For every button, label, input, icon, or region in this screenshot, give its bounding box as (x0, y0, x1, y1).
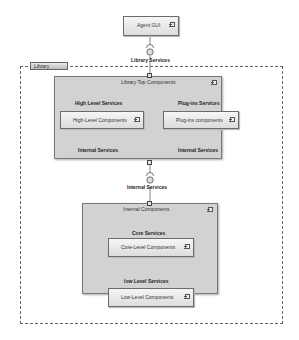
library-top-components-label: Library Top Components (121, 79, 175, 85)
internal-components-label: Internal Components (123, 206, 169, 212)
internal-services-right-label: Internal Services (178, 147, 218, 153)
plugins-components-label: Plug-ins components (176, 117, 223, 123)
component-icon (208, 207, 213, 212)
high-level-components[interactable]: High-Level Components (60, 111, 144, 129)
high-level-services-label: High Level Services (75, 100, 122, 106)
low-level-components[interactable]: Low-Level Components (108, 288, 194, 307)
internal-services-left-label: Internal Services (78, 147, 118, 153)
agent-gui-component[interactable]: Agent GUI (123, 16, 179, 36)
low-level-services-label: low Level Services (124, 278, 168, 284)
core-services-label: Core Services (132, 230, 165, 236)
component-icon (170, 22, 175, 27)
internal-services-mid-label: Internal Services (127, 184, 167, 190)
component-icon (135, 117, 140, 122)
agent-gui-label: Agent GUI (137, 22, 160, 28)
internal-port-top (147, 160, 152, 165)
component-icon (212, 80, 217, 85)
core-level-components-label: Core-Level Components (121, 244, 175, 250)
component-icon (185, 294, 190, 299)
library-services-label: Library Services (131, 57, 170, 63)
library-package-tab: Library (30, 62, 68, 70)
plugins-components[interactable]: Plug-ins components (163, 111, 239, 129)
component-icon (185, 244, 190, 249)
core-level-components[interactable]: Core-Level Components (108, 238, 194, 257)
plugin-services-label: Plug-ins Services (178, 100, 220, 106)
component-icon (230, 117, 235, 122)
internal-port-bottom (147, 201, 152, 206)
high-level-components-label: High-Level Components (73, 117, 127, 123)
library-port (147, 73, 152, 78)
low-level-components-label: Low-Level Components (121, 294, 174, 300)
